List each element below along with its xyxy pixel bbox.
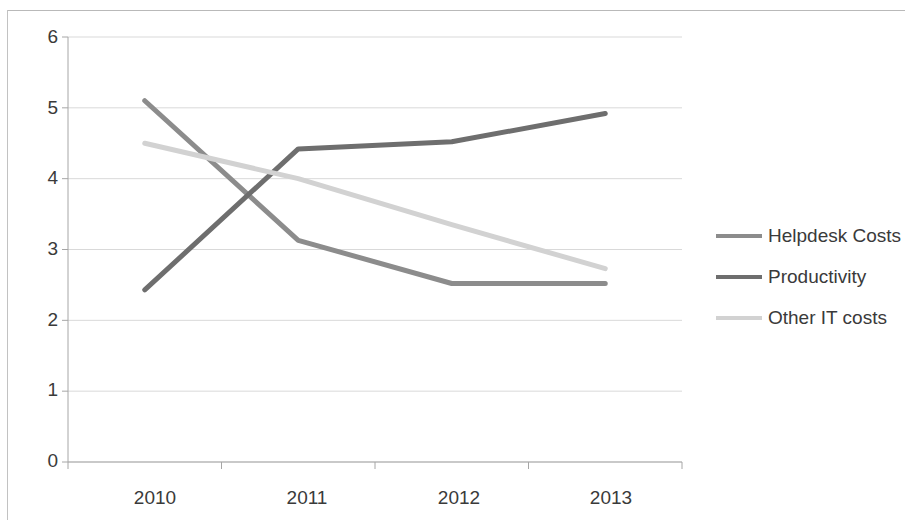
legend-item-other-it-costs[interactable]: Other IT costs — [716, 297, 916, 338]
legend-swatch-icon-helpdesk-costs — [716, 234, 762, 238]
legend-label-other-it-costs: Other IT costs — [768, 307, 887, 329]
gridlines — [68, 37, 682, 462]
series-lines — [145, 101, 606, 290]
legend-label-helpdesk-costs: Helpdesk Costs — [768, 225, 901, 247]
legend-label-productivity: Productivity — [768, 266, 866, 288]
line-chart: 6 5 4 3 2 1 0 2010 2011 2012 2013 Helpde… — [0, 0, 918, 529]
axis-ticks — [62, 37, 682, 469]
legend-item-productivity[interactable]: Productivity — [716, 256, 916, 297]
legend-swatch-icon-other-it-costs — [716, 316, 762, 320]
chart-legend: Helpdesk Costs Productivity Other IT cos… — [716, 215, 916, 338]
legend-item-helpdesk-costs[interactable]: Helpdesk Costs — [716, 215, 916, 256]
legend-swatch-icon-productivity — [716, 275, 762, 279]
